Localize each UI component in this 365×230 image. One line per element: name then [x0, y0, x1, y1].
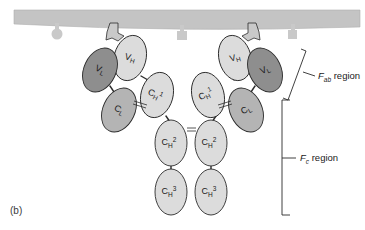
- fab-region-label: Fab region: [318, 70, 360, 83]
- fab-bracket: [283, 49, 306, 100]
- domains-group: [76, 32, 289, 215]
- cell-membrane-bar: [14, 10, 360, 29]
- cell-membrane-group: [14, 10, 360, 29]
- region-labels-group: Fab region Fc region: [300, 70, 360, 165]
- antibody-structure-figure: VH VL CH1 CL VH VL CH1 CL CH2 CH2 CH3 CH…: [0, 0, 365, 230]
- bracket-group: [282, 49, 315, 215]
- fab-bracket-tick: [303, 72, 315, 76]
- fc-bracket: [282, 100, 290, 215]
- panel-label: (b): [10, 205, 22, 216]
- fc-region-label: Fc region: [300, 152, 338, 165]
